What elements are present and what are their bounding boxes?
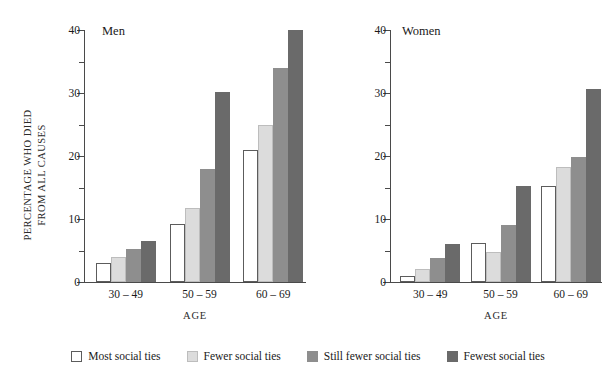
y-tick-minor xyxy=(385,251,390,252)
y-tick-minor xyxy=(79,251,84,252)
bar-group xyxy=(170,30,230,282)
plot-area-women xyxy=(391,30,602,282)
y-tick-minor xyxy=(79,62,84,63)
legend-swatch xyxy=(447,351,458,362)
bar xyxy=(400,276,415,282)
legend-label: Most social ties xyxy=(88,350,160,362)
bar xyxy=(111,257,126,282)
legend-item: Most social ties xyxy=(71,350,160,362)
y-tick-label: 40 xyxy=(69,24,81,36)
x-axis-line xyxy=(84,282,306,283)
x-axis-line xyxy=(390,282,602,283)
legend-label: Fewer social ties xyxy=(204,350,281,362)
bar-group xyxy=(243,30,303,282)
legend-swatch xyxy=(307,351,318,362)
panel-women: Women 010203040 30 – 4950 – 5960 – 69 AG… xyxy=(368,22,606,310)
legend-item: Fewest social ties xyxy=(447,350,545,362)
bar xyxy=(445,244,460,282)
x-axis-title-women: AGE xyxy=(484,310,508,321)
y-tick-label: 30 xyxy=(375,87,387,99)
bar xyxy=(273,68,288,282)
bar xyxy=(571,157,586,282)
bar xyxy=(170,224,185,282)
x-tick-label: 50 – 59 xyxy=(182,288,217,300)
bar xyxy=(516,186,531,282)
bar xyxy=(126,249,141,282)
legend-swatch xyxy=(187,351,198,362)
bar xyxy=(215,92,230,282)
bar xyxy=(430,258,445,282)
plot-area-men xyxy=(85,30,306,282)
bar xyxy=(200,169,215,282)
y-tick-minor xyxy=(385,188,390,189)
bar-group xyxy=(96,30,156,282)
x-tick-label: 60 – 69 xyxy=(554,288,589,300)
y-tick-label: 20 xyxy=(69,150,81,162)
bar xyxy=(185,208,200,282)
bar xyxy=(96,263,111,282)
y-tick-label: 10 xyxy=(69,213,81,225)
panel-men: Men 010203040 30 – 4950 – 5960 – 69 AGE xyxy=(62,22,312,310)
bar-group xyxy=(400,30,460,282)
y-tick-label: 30 xyxy=(69,87,81,99)
bar xyxy=(541,186,556,282)
legend-label: Still fewer social ties xyxy=(324,350,421,362)
bar xyxy=(486,252,501,282)
y-tick-minor xyxy=(385,125,390,126)
y-axis-title-line2: FROM ALL CAUSES xyxy=(36,124,47,225)
bar xyxy=(586,89,601,282)
bar xyxy=(501,225,516,282)
bar-group xyxy=(471,30,531,282)
y-tick-label: 0 xyxy=(380,276,386,288)
y-tick-minor xyxy=(385,62,390,63)
y-tick-label: 40 xyxy=(375,24,387,36)
bar-group xyxy=(541,30,601,282)
bar xyxy=(258,125,273,283)
bar xyxy=(141,241,156,282)
legend-item: Still fewer social ties xyxy=(307,350,421,362)
bar xyxy=(471,243,486,282)
legend-label: Fewest social ties xyxy=(464,350,545,362)
y-tick-label: 20 xyxy=(375,150,387,162)
x-tick-label: 30 – 49 xyxy=(109,288,144,300)
bar xyxy=(415,269,430,282)
bar xyxy=(556,167,571,282)
y-axis-title-line1: PERCENTAGE WHO DIED xyxy=(22,109,33,240)
chart-figure: PERCENTAGE WHO DIED FROM ALL CAUSES Men … xyxy=(0,0,616,380)
x-axis-title-men: AGE xyxy=(183,310,207,321)
legend-item: Fewer social ties xyxy=(187,350,281,362)
y-tick-minor xyxy=(79,125,84,126)
x-tick-label: 30 – 49 xyxy=(413,288,448,300)
x-tick-label: 50 – 59 xyxy=(483,288,518,300)
bar xyxy=(243,150,258,282)
x-tick-label: 60 – 69 xyxy=(256,288,291,300)
chart-legend: Most social tiesFewer social tiesStill f… xyxy=(0,344,616,368)
legend-swatch xyxy=(71,351,82,362)
bar xyxy=(288,30,303,282)
y-axis-title: PERCENTAGE WHO DIED FROM ALL CAUSES xyxy=(8,90,62,260)
y-tick-minor xyxy=(79,188,84,189)
y-tick-label: 10 xyxy=(375,213,387,225)
y-tick-label: 0 xyxy=(74,276,80,288)
